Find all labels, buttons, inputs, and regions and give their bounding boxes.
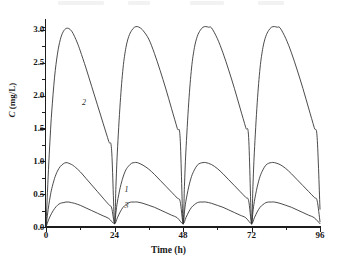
x-axis-title: Time (h): [0, 245, 337, 255]
figure-container: 0.00.51.01.52.02.53.0 024487296 C (mg/L)…: [0, 0, 337, 264]
x-tick-minor: [217, 228, 218, 231]
y-tick-label: 0.5: [14, 190, 44, 199]
x-tick-label: 24: [100, 231, 130, 240]
x-tick-label: 72: [237, 231, 267, 240]
y-tick-label: 2.0: [14, 91, 44, 100]
y-axis-title-symbol: C: [7, 111, 17, 117]
curve-2: [46, 27, 320, 227]
y-tick-minor: [42, 112, 45, 113]
curve-label-1: 1: [124, 186, 128, 194]
y-tick-label: 2.5: [14, 58, 44, 67]
y-tick-minor: [42, 178, 45, 179]
curve-label-3: 3: [124, 202, 128, 210]
x-tick-label: 96: [305, 231, 335, 240]
y-tick-label: 1.5: [14, 124, 44, 133]
y-axis-title: C (mg/L): [7, 64, 17, 136]
x-tick-minor: [286, 228, 287, 231]
y-tick-label: 1.0: [14, 157, 44, 166]
y-tick-label: 3.0: [14, 25, 44, 34]
y-tick-minor: [42, 79, 45, 80]
cropped-header-artifact: [0, 0, 337, 9]
y-axis-title-units: (mg/L): [7, 83, 17, 112]
y-tick-minor: [42, 145, 45, 146]
x-tick-minor: [80, 228, 81, 231]
x-tick-label: 0: [31, 231, 61, 240]
y-tick-minor: [42, 46, 45, 47]
x-tick-minor: [149, 228, 150, 231]
curve-layer: [46, 20, 320, 227]
y-tick-minor: [42, 211, 45, 212]
curve-label-2: 2: [82, 99, 86, 107]
plot-area: [46, 20, 320, 227]
x-tick-label: 48: [168, 231, 198, 240]
